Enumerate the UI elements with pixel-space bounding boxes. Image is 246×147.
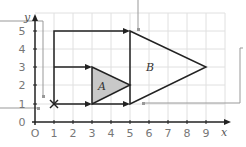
svg-text:1: 1 [19, 98, 26, 111]
svg-text:5: 5 [127, 127, 134, 140]
svg-text:9: 9 [203, 127, 210, 140]
diagram-canvas: O 1 2 3 4 5 6 7 8 9 x 0 1 2 3 4 5 y A B [0, 0, 246, 147]
svg-text:3: 3 [19, 61, 26, 74]
svg-text:3: 3 [89, 127, 96, 140]
tick-marks [33, 31, 206, 124]
x-axis-label: x [221, 126, 228, 139]
arrow-icon [85, 64, 92, 70]
arrow-icon [85, 101, 92, 107]
triangle-a-label: A [97, 80, 106, 93]
svg-text:4: 4 [108, 127, 115, 140]
y-axis-label: y [23, 11, 31, 24]
arrow-icon [123, 28, 130, 34]
callout-lines [0, 0, 243, 108]
svg-text:6: 6 [146, 127, 153, 140]
arrow-icon [123, 101, 130, 107]
x-tick-labels: O 1 2 3 4 5 6 7 8 9 x [31, 126, 228, 140]
triangle-b-label: B [145, 61, 154, 74]
svg-text:0: 0 [19, 116, 26, 129]
svg-text:5: 5 [19, 25, 26, 38]
svg-text:2: 2 [19, 79, 26, 92]
svg-text:7: 7 [165, 127, 172, 140]
y-tick-labels: 0 1 2 3 4 5 y [19, 11, 32, 129]
svg-text:8: 8 [184, 127, 191, 140]
svg-text:2: 2 [70, 127, 77, 140]
y-axis-arrow-icon [32, 14, 38, 21]
callout-markers [37, 28, 145, 110]
x-axis-arrow-icon [224, 119, 231, 125]
svg-text:O: O [31, 127, 40, 140]
svg-text:1: 1 [51, 127, 58, 140]
svg-text:4: 4 [19, 43, 26, 56]
